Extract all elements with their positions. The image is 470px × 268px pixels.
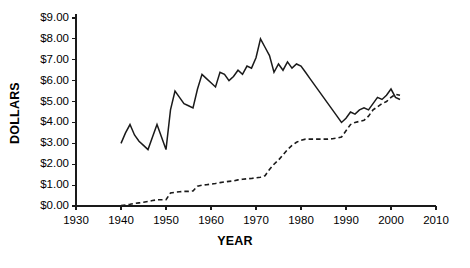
axes — [76, 14, 436, 206]
y-tick-label: $5.00 — [21, 95, 69, 107]
y-tick-label: $7.00 — [21, 53, 69, 65]
y-tick-label: $8.00 — [21, 32, 69, 44]
x-tick-label: 1940 — [99, 214, 143, 226]
series-line-solid-series — [121, 39, 400, 150]
chart-container: DOLLARS YEAR $0.00$1.00$2.00$3.00$4.00$5… — [0, 0, 470, 268]
x-tick-label: 1970 — [234, 214, 278, 226]
y-tick-label: $3.00 — [21, 136, 69, 148]
y-tick-label: $2.00 — [21, 157, 69, 169]
y-tick-label: $4.00 — [21, 115, 69, 127]
y-tick-label: $0.00 — [21, 199, 69, 211]
plot-area — [0, 0, 470, 268]
x-tick-label: 2010 — [414, 214, 458, 226]
x-tick-label: 1990 — [324, 214, 368, 226]
y-tick-label: $9.00 — [21, 11, 69, 23]
y-tick-label: $1.00 — [21, 178, 69, 190]
x-tick-label: 1960 — [189, 214, 233, 226]
tick-marks — [72, 18, 436, 210]
x-tick-label: 1930 — [54, 214, 98, 226]
x-tick-label: 1980 — [279, 214, 323, 226]
y-tick-label: $6.00 — [21, 74, 69, 86]
data-series — [121, 39, 400, 206]
x-tick-label: 2000 — [369, 214, 413, 226]
x-tick-label: 1950 — [144, 214, 188, 226]
